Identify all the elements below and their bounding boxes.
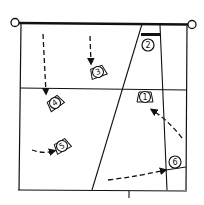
end-line — [18, 190, 187, 191]
zone-right-line — [160, 25, 167, 190]
player-1-label: 1 — [142, 93, 147, 102]
left-sideline — [19, 24, 21, 190]
block-bar — [141, 33, 160, 36]
player-5: 5 — [52, 137, 71, 155]
arrow-to-1 — [152, 110, 182, 138]
player-6-label: 6 — [172, 158, 177, 167]
zone-diagonal-line — [92, 24, 142, 190]
arrow-to-6 — [108, 170, 165, 180]
net-line — [19, 23, 188, 25]
player-1: 1 — [137, 92, 153, 103]
player-4: 4 — [45, 94, 64, 112]
left-post-icon — [11, 19, 19, 27]
arrow-to-4 — [43, 34, 46, 93]
player-6: 6 — [169, 156, 181, 168]
right-post-icon — [188, 21, 196, 29]
player-2-label: 2 — [145, 41, 150, 50]
player-3: 3 — [89, 64, 108, 80]
attack-line — [20, 88, 187, 90]
right-sideline — [186, 26, 187, 190]
arrow-to-3 — [90, 36, 91, 63]
arrow-to-5 — [32, 150, 54, 152]
court-diagram: 1 2 3 4 5 6 — [0, 0, 204, 205]
player-2: 2 — [142, 39, 154, 51]
